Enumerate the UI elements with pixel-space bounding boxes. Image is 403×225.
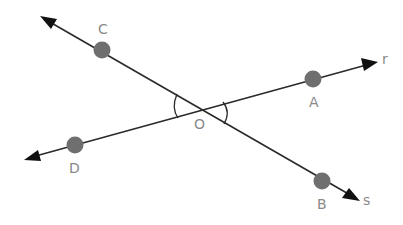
angle-arc-left [174, 94, 178, 118]
point-c [94, 42, 111, 59]
label-line-s: s [363, 192, 370, 208]
label-c: C [98, 21, 108, 37]
point-d [67, 137, 84, 154]
arrowhead-r-left-icon [24, 150, 41, 161]
point-a [305, 71, 322, 88]
angle-arc-right [223, 102, 227, 124]
arrowhead-s-right-icon [342, 188, 360, 201]
point-b [314, 173, 331, 190]
label-a: A [309, 94, 319, 110]
diagram-canvas: C A O D B r s [0, 0, 403, 225]
label-b: B [317, 196, 327, 212]
line-s [48, 21, 352, 196]
arrowhead-s-left-icon [40, 16, 57, 29]
arrowhead-r-right-icon [361, 58, 378, 71]
label-o: O [194, 116, 205, 132]
label-line-r: r [382, 51, 388, 67]
label-d: D [69, 160, 80, 176]
